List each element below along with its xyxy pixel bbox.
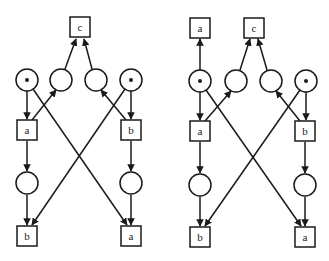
place-p6	[120, 172, 142, 194]
arc-p1-to-a-bot	[33, 89, 127, 225]
place-p6	[294, 174, 316, 196]
place-p3	[260, 70, 282, 92]
petri-net-diagram: c a b b a a	[0, 0, 329, 261]
arc-p3-to-c	[258, 39, 267, 70]
right-labels: a c a b b a	[197, 22, 308, 243]
token-icon	[304, 79, 308, 83]
label-b: b	[302, 125, 308, 137]
arc-a-mid-to-p2	[32, 90, 56, 120]
arc-p4-to-b-bot	[205, 90, 300, 226]
label-c: c	[252, 22, 257, 34]
label-a: a	[129, 230, 134, 242]
place-p2	[50, 69, 72, 91]
label-b: b	[197, 231, 203, 243]
label-a: a	[198, 125, 203, 137]
place-p2	[225, 70, 247, 92]
token-icon	[198, 79, 202, 83]
label-c: c	[78, 21, 83, 33]
label-b: b	[24, 230, 30, 242]
place-p5	[16, 172, 38, 194]
label-b: b	[128, 124, 134, 136]
place-p3	[85, 69, 107, 91]
token-icon	[25, 78, 29, 82]
arc-p2-to-c	[65, 39, 76, 69]
label-a: a	[303, 231, 308, 243]
left-petri-net	[16, 17, 142, 246]
token-icon	[129, 78, 133, 82]
place-p5	[189, 174, 211, 196]
left-labels: c a b b a	[24, 21, 134, 242]
arc-p3-to-c	[84, 39, 92, 69]
label-a: a	[25, 124, 30, 136]
arc-p2-to-c	[240, 39, 250, 70]
label-a: a	[198, 22, 203, 34]
arc-p1-to-a-bot	[206, 90, 301, 226]
right-petri-net	[189, 18, 317, 247]
arc-a-mid-to-p2	[205, 91, 231, 121]
arc-p4-to-b-bot	[32, 89, 125, 225]
